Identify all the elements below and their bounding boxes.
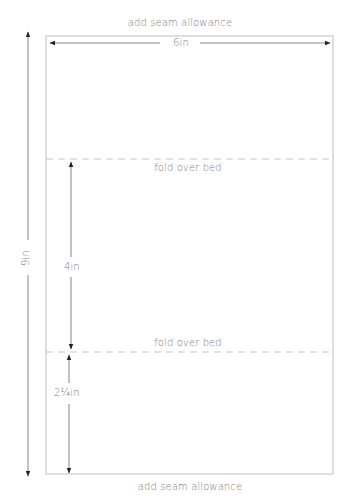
middle-section-label: 4in	[63, 261, 81, 273]
bottom-seam-note: add seam allowance	[138, 481, 242, 493]
width-label: 6in	[170, 37, 192, 49]
pattern-diagram	[0, 0, 353, 504]
top-seam-note: add seam allowance	[128, 17, 232, 29]
fold-label-1: fold over bed	[154, 162, 222, 174]
bottom-section-label: 2¼in	[53, 387, 81, 399]
height-label: 9in	[20, 248, 32, 268]
pattern-outline	[46, 36, 333, 474]
fold-label-2: fold over bed	[154, 337, 222, 349]
